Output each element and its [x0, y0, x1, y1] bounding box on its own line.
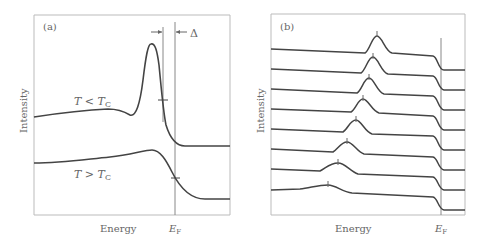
edc-6 [271, 142, 465, 170]
arrowhead-icon [158, 30, 162, 34]
ef-label: EF [434, 223, 447, 236]
edc-2 [271, 57, 465, 90]
panel-b-frame [271, 14, 465, 215]
edc-5 [271, 120, 465, 150]
panel-a: (a) Δ T < TC T > TC Energy EF Intensity [18, 15, 230, 236]
panel-b: (b) Energy EF Intensity [255, 14, 465, 236]
x-axis-label: Energy [100, 223, 137, 234]
panel-b-label: (b) [280, 21, 294, 32]
ef-label: EF [168, 223, 181, 236]
curve1-label: T < TC [74, 95, 111, 109]
curve-t-below-tc [34, 44, 230, 146]
edc-8 [271, 185, 465, 210]
y-axis-label: Intensity [18, 88, 29, 133]
x-axis-label: Energy [335, 223, 372, 234]
arrowhead-icon [176, 30, 180, 34]
edc-1 [271, 36, 465, 70]
edc-3 [271, 78, 465, 110]
figure: (a) Δ T < TC T > TC Energy EF Intensity … [0, 0, 484, 241]
edc-7 [271, 163, 465, 190]
curve-t-above-tc [34, 150, 230, 199]
delta-label: Δ [190, 27, 198, 40]
y-axis-label: Intensity [255, 88, 266, 133]
panel-a-label: (a) [43, 21, 57, 32]
curve2-label: T > TC [74, 168, 111, 182]
edc-4 [271, 99, 465, 130]
edc-stack [271, 36, 465, 210]
